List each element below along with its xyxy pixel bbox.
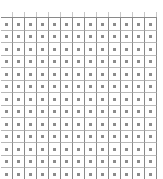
grid-cell [109,68,121,81]
grid-cell [49,156,61,169]
grid-cell [121,43,133,56]
square-dot-icon [77,148,80,151]
square-dot-icon [65,48,68,51]
square-dot-icon [113,135,116,138]
square-dot-icon [101,35,104,38]
grid-cell [121,156,133,169]
grid-cell [13,56,25,69]
grid-cell [109,31,121,44]
grid-cell [37,118,49,131]
square-dot-icon [17,48,20,51]
square-dot-icon [137,123,140,126]
grid-cell [13,106,25,119]
square-dot-icon [65,110,68,113]
square-dot-icon [29,135,32,138]
grid-cell [85,93,97,106]
grid-cell [97,131,109,144]
grid-cell [49,106,61,119]
grid-cell [61,43,73,56]
square-dot-icon [29,110,32,113]
square-dot-icon [53,135,56,138]
square-dot-icon [149,123,152,126]
square-dot-icon [113,73,116,76]
grid-cell [1,56,13,69]
grid-cell [73,81,85,94]
grid-cell [1,81,13,94]
grid-cell [49,43,61,56]
grid-cell [37,43,49,56]
grid-cell [121,93,133,106]
grid-cell [49,131,61,144]
grid-cell [145,106,157,119]
square-dot-icon [29,48,32,51]
grid-cell [121,31,133,44]
square-dot-icon [17,98,20,101]
square-dot-icon [65,60,68,63]
grid-cell [37,31,49,44]
grid-cell [85,43,97,56]
square-dot-icon [89,148,92,151]
grid-cell [13,81,25,94]
grid-cell [97,68,109,81]
grid-cell [25,31,37,44]
square-dot-icon [89,98,92,101]
square-dot-icon [77,123,80,126]
square-dot-icon [149,23,152,26]
square-dot-icon [5,60,8,63]
square-dot-icon [149,48,152,51]
grid-cell [121,118,133,131]
grid-cell [73,18,85,31]
square-dot-icon [5,160,8,163]
square-dot-icon [41,60,44,63]
square-dot-icon [77,173,80,176]
square-dot-icon [29,160,32,163]
square-dot-icon [41,98,44,101]
grid-cell [37,93,49,106]
square-dot-icon [125,73,128,76]
grid-cell [13,93,25,106]
grid-cell [109,93,121,106]
square-dot-icon [41,73,44,76]
square-dot-icon [53,73,56,76]
grid-cell [49,143,61,156]
grid-cell [61,81,73,94]
grid-cell [85,18,97,31]
square-dot-icon [77,85,80,88]
square-dot-icon [5,148,8,151]
square-dot-icon [41,160,44,163]
square-dot-icon [77,60,80,63]
grid-cell [145,56,157,69]
square-dot-icon [17,148,20,151]
grid-cell [61,31,73,44]
grid-cell [97,81,109,94]
square-dot-icon [65,98,68,101]
square-dot-icon [113,160,116,163]
grid-cell [85,68,97,81]
grid-cell [109,43,121,56]
square-dot-icon [77,160,80,163]
square-dot-icon [125,135,128,138]
grid-cell [37,81,49,94]
square-dot-icon [101,173,104,176]
square-dot-icon [17,85,20,88]
grid-cell [25,143,37,156]
grid-cell [145,118,157,131]
grid-cell [85,31,97,44]
grid-cell [61,68,73,81]
grid-cell [13,31,25,44]
square-dot-icon [77,23,80,26]
square-dot-icon [41,123,44,126]
grid-cell [109,143,121,156]
grid-cell [109,131,121,144]
square-dot-icon [137,160,140,163]
grid-cell [133,106,145,119]
square-dot-icon [89,23,92,26]
grid-cell [145,143,157,156]
square-dot-icon [77,135,80,138]
square-dot-icon [53,48,56,51]
square-dot-icon [41,148,44,151]
square-dot-icon [53,110,56,113]
grid-cell [1,43,13,56]
grid-cell [1,143,13,156]
grid-cell [145,31,157,44]
